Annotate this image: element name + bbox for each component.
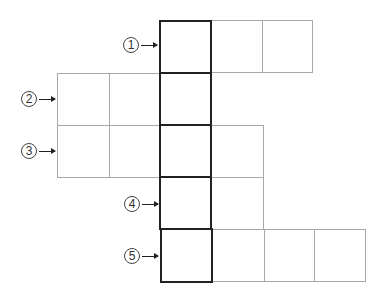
row-3-cell-4[interactable] (211, 125, 264, 178)
row-4-label: 4 (124, 195, 158, 213)
row-5-cell-3[interactable] (264, 229, 315, 282)
row-2-label: 2 (21, 90, 55, 108)
arrow-right-icon (39, 151, 55, 152)
arrow-right-icon (141, 45, 157, 46)
row-2-cell-3-key[interactable] (159, 72, 212, 126)
row-5-cell-1-key[interactable] (160, 228, 213, 283)
arrow-right-icon (142, 256, 158, 257)
row-3-cell-1[interactable] (57, 125, 110, 178)
row-3-label: 3 (21, 142, 55, 160)
row-number-4: 4 (124, 196, 140, 212)
crossword-grid: 1 2 3 4 5 (0, 0, 382, 301)
row-4-cell-1-key[interactable] (159, 176, 212, 230)
row-4-cell-2[interactable] (211, 177, 264, 230)
row-3-cell-3-key[interactable] (159, 124, 212, 178)
row-5-cell-4[interactable] (314, 229, 366, 282)
row-1-cell-2[interactable] (211, 20, 263, 73)
arrow-right-icon (39, 99, 55, 100)
row-2-cell-1[interactable] (57, 73, 110, 126)
row-1-cell-3[interactable] (262, 20, 313, 73)
row-5-label: 5 (124, 247, 158, 265)
row-2-cell-2[interactable] (109, 73, 160, 126)
row-number-5: 5 (124, 248, 140, 264)
row-1-label: 1 (123, 36, 157, 54)
row-1-cell-1-key[interactable] (159, 20, 212, 74)
row-number-2: 2 (21, 91, 37, 107)
arrow-right-icon (142, 204, 158, 205)
row-3-cell-2[interactable] (109, 125, 160, 178)
row-number-1: 1 (123, 37, 139, 53)
row-5-cell-2[interactable] (212, 229, 265, 282)
row-number-3: 3 (21, 143, 37, 159)
